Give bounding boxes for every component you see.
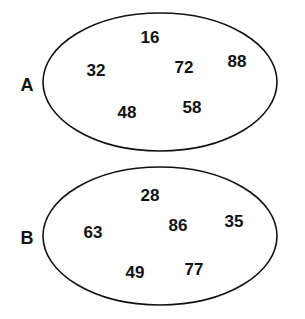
set-a-element: 32 — [87, 61, 106, 81]
set-a-element: 48 — [118, 103, 137, 123]
set-b-element: 77 — [185, 260, 204, 280]
set-a-element: 72 — [175, 58, 194, 78]
set-a-element: 58 — [183, 98, 202, 118]
set-b-label: B — [21, 228, 34, 249]
set-b-element: 86 — [169, 216, 188, 236]
set-a-element: 88 — [228, 52, 247, 72]
set-b-ellipse — [43, 167, 277, 305]
set-b-element: 28 — [141, 186, 160, 206]
set-b-element: 35 — [225, 212, 244, 232]
set-a-label: A — [21, 75, 34, 96]
set-a-ellipse — [43, 13, 277, 151]
set-a-element: 16 — [141, 28, 160, 48]
set-b-element: 49 — [126, 263, 145, 283]
set-b-element: 63 — [84, 223, 103, 243]
